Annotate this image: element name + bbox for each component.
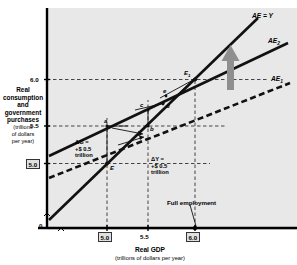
curve-label-ae-equals-y: AE = Y [252,12,273,19]
annotation-full-employment: Full employment [167,199,216,206]
curve-label-ae2-base: AE [268,37,277,44]
marker-point-E1 [193,77,197,81]
point-label-E: E [110,165,114,171]
curve-label-ae2: AE2 [268,37,280,46]
annotation-delta-y: ΔY = +$ 0.5 trillion [151,156,169,176]
curve-label-ae2-subscript: 2 [277,41,280,46]
point-label-E1-subscript: 1 [188,73,190,78]
annotation-delta-g-line-2: +$ 0.5 [75,146,93,153]
annotation-delta-g-line-1: ΔG = [75,139,93,146]
marker-point-e [165,95,168,98]
marker-point-d [162,103,165,106]
aggregate-expenditure-figure: Real consumption and government purchase… [0,0,297,265]
curve-label-ae1: AE1 [271,75,283,84]
marker-point-E [105,162,109,166]
multiplier-arrow-1 [112,128,143,136]
chart-vector-layer [0,0,297,265]
marker-point-c [147,109,150,112]
annotation-delta-g-line-3: trillion [75,152,93,159]
curve-label-ae1-subscript: 1 [280,79,283,84]
point-label-E1: E1 [184,70,190,78]
annotation-delta-y-line-1: ΔY = [151,156,169,163]
point-label-a: a [104,118,107,124]
point-label-e: e [163,88,166,94]
curve-ae-equals-y [49,18,258,220]
annotation-delta-y-line-3: trillion [151,169,169,176]
marker-point-a [105,124,108,127]
annotation-delta-y-line-2: +$ 0.5 [151,163,169,170]
point-label-c: c [140,102,143,108]
curve-label-ae1-base: AE [271,75,280,82]
annotation-delta-g: ΔG = +$ 0.5 trillion [75,139,93,159]
point-label-d: d [166,103,170,109]
point-label-b: b [150,126,154,132]
